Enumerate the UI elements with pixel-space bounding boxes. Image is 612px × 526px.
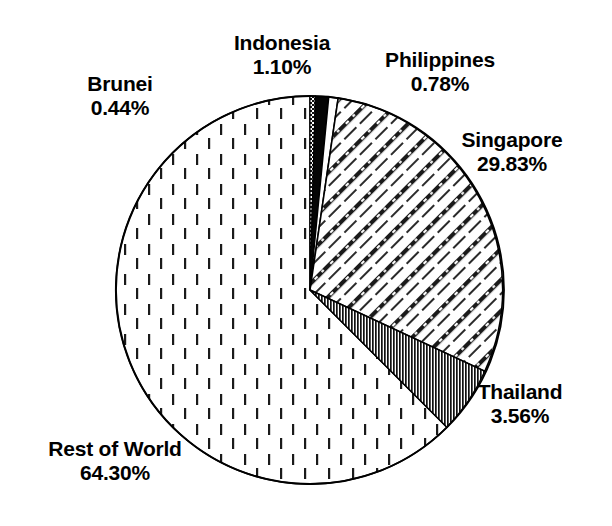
pie-label-rest-of-world-value: 64.30% — [10, 461, 220, 485]
pie-label-philippines-name: Philippines — [355, 48, 525, 72]
pie-label-singapore-value: 29.83% — [422, 152, 602, 176]
pie-label-brunei-value: 0.44% — [54, 96, 186, 120]
pie-label-philippines: Philippines 0.78% — [355, 48, 525, 96]
pie-label-singapore: Singapore 29.83% — [422, 128, 602, 176]
pie-label-brunei: Brunei 0.44% — [54, 72, 186, 120]
pie-label-thailand-name: Thailand — [440, 380, 600, 404]
pie-label-singapore-name: Singapore — [422, 128, 602, 152]
pie-label-rest-of-world-name: Rest of World — [10, 437, 220, 461]
pie-label-brunei-name: Brunei — [54, 72, 186, 96]
pie-label-indonesia: Indonesia 1.10% — [197, 31, 367, 79]
pie-label-indonesia-value: 1.10% — [197, 55, 367, 79]
pie-label-philippines-value: 0.78% — [355, 72, 525, 96]
pie-label-rest-of-world: Rest of World 64.30% — [10, 437, 220, 485]
pie-chart-figure: Indonesia 1.10% Philippines 0.78% Brunei… — [0, 0, 612, 526]
pie-label-thailand-value: 3.56% — [440, 404, 600, 428]
pie-label-thailand: Thailand 3.56% — [440, 380, 600, 428]
pie-label-indonesia-name: Indonesia — [197, 31, 367, 55]
